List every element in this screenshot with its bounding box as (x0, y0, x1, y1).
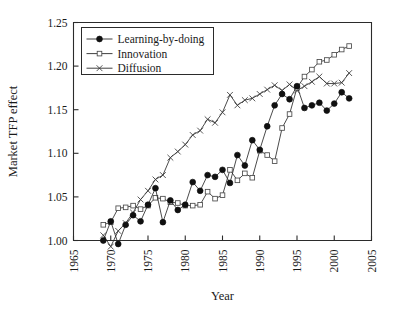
data-point (325, 58, 330, 63)
x-tick-label: 1975 (142, 249, 154, 272)
data-point (100, 238, 106, 244)
data-point (131, 203, 136, 208)
data-point (130, 212, 136, 218)
data-point (287, 112, 292, 117)
x-tick-label: 2000 (328, 249, 340, 272)
x-tick-label: 1985 (217, 249, 229, 272)
data-point (167, 197, 173, 203)
legend-label: Learning-by-doing (118, 33, 205, 46)
data-point (302, 74, 307, 79)
data-point (161, 196, 166, 201)
data-point (324, 108, 330, 114)
data-point (198, 202, 203, 207)
data-point (302, 105, 308, 111)
data-point (339, 89, 345, 95)
legend-marker (97, 36, 103, 42)
data-point (250, 175, 255, 180)
data-point (108, 218, 114, 224)
data-point (310, 67, 315, 72)
chart-figure: 196519701975198019851990199520002005 1.0… (0, 0, 393, 309)
data-point (212, 174, 218, 180)
data-point (220, 193, 225, 198)
data-point (123, 205, 128, 210)
data-point (115, 241, 121, 247)
data-point (347, 44, 352, 49)
data-point (138, 218, 144, 224)
data-point (294, 83, 300, 89)
data-point (346, 95, 352, 101)
data-point (235, 178, 240, 183)
x-tick-label: 1990 (254, 249, 266, 272)
data-point (332, 52, 337, 57)
data-point (205, 189, 210, 194)
data-point (190, 179, 196, 185)
data-point (249, 137, 255, 143)
x-tick-label: 2005 (366, 249, 378, 272)
data-point (220, 167, 226, 173)
chart-legend: Learning-by-doingInnovationDiffusion (82, 28, 214, 75)
data-point (339, 47, 344, 52)
data-point (123, 222, 129, 228)
y-axis-title: Market TFP effect (6, 85, 20, 177)
data-point (331, 101, 337, 107)
y-tick-label: 1.15 (47, 104, 67, 116)
x-axis-title: Year (211, 289, 235, 303)
data-point (272, 102, 278, 108)
data-point (265, 153, 270, 158)
legend-label: Innovation (118, 48, 168, 60)
y-tick-label: 1.25 (47, 17, 67, 29)
data-point (257, 147, 263, 153)
data-point (182, 202, 188, 208)
data-point (205, 172, 211, 178)
data-point (287, 96, 293, 102)
data-point (242, 163, 248, 169)
data-point (264, 123, 270, 129)
x-tick-label: 1980 (179, 249, 191, 272)
data-point (227, 180, 233, 186)
x-tick-label: 1965 (68, 249, 80, 272)
data-point (175, 207, 181, 213)
data-point (279, 91, 285, 97)
data-point (316, 100, 322, 106)
data-point (101, 223, 106, 228)
data-point (317, 59, 322, 64)
data-point (213, 196, 218, 201)
data-point (116, 206, 121, 211)
legend-marker (97, 51, 102, 56)
y-tick-label: 1.10 (47, 147, 67, 159)
data-point (176, 201, 181, 206)
x-tick-label: 1970 (105, 249, 117, 272)
data-point (280, 126, 285, 131)
data-point (138, 207, 143, 212)
data-point (309, 102, 315, 108)
y-tick-label: 1.05 (47, 191, 67, 203)
y-tick-label: 1.20 (47, 60, 67, 72)
data-point (145, 202, 151, 208)
data-point (272, 159, 277, 164)
data-point (153, 185, 159, 191)
data-point (197, 188, 203, 194)
data-point (243, 171, 248, 176)
data-point (190, 203, 195, 208)
y-tick-label: 1.00 (47, 235, 67, 247)
x-tick-label: 1995 (291, 249, 303, 272)
x-axis-tick-labels: 196519701975198019851990199520002005 (68, 249, 378, 272)
data-point (228, 168, 233, 173)
data-point (235, 152, 241, 158)
tfp-line-chart: 196519701975198019851990199520002005 1.0… (0, 0, 393, 309)
data-point (160, 219, 166, 225)
legend-label: Diffusion (118, 62, 162, 74)
